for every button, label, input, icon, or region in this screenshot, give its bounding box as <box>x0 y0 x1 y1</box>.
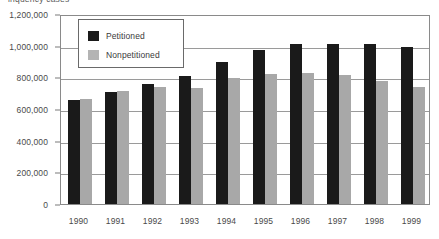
x-axis-tick-label: 1994 <box>217 216 236 226</box>
bar-nonpetitioned-1994[interactable] <box>228 78 240 204</box>
x-axis-tick-label: 1996 <box>291 216 310 226</box>
x-axis-tick-label: 1997 <box>328 216 347 226</box>
bar-nonpetitioned-1998[interactable] <box>376 81 388 204</box>
bar-petitioned-1995[interactable] <box>253 50 265 204</box>
y-axis-tick-label: 200,000 <box>17 168 48 178</box>
x-axis-tick-label: 1993 <box>180 216 199 226</box>
bar-petitioned-1997[interactable] <box>327 44 339 204</box>
bar-nonpetitioned-1995[interactable] <box>265 74 277 204</box>
bar-petitioned-1996[interactable] <box>290 44 302 204</box>
legend-label-petitioned: Petitioned <box>106 31 145 41</box>
x-axis-tick-label: 1991 <box>106 216 125 226</box>
bar-petitioned-1993[interactable] <box>179 76 191 204</box>
x-axis-tick-label: 1995 <box>254 216 273 226</box>
legend-swatch-petitioned <box>88 31 99 41</box>
y-axis-tick-label: 1,000,000 <box>9 42 48 52</box>
legend-item-petitioned[interactable]: Petitioned <box>88 27 183 44</box>
bar-nonpetitioned-1999[interactable] <box>413 87 425 204</box>
bar-nonpetitioned-1997[interactable] <box>339 75 351 204</box>
bar-nonpetitioned-1991[interactable] <box>117 91 129 204</box>
bar-petitioned-1990[interactable] <box>68 100 80 204</box>
bar-petitioned-1994[interactable] <box>216 62 228 204</box>
legend-swatch-nonpetitioned <box>88 50 99 60</box>
bar-petitioned-1991[interactable] <box>105 92 117 204</box>
chart-legend: Petitioned Nonpetitioned <box>78 19 184 68</box>
bar-nonpetitioned-1993[interactable] <box>191 88 203 204</box>
x-axis-tick-label: 1990 <box>69 216 88 226</box>
bar-petitioned-1992[interactable] <box>142 84 154 204</box>
y-axis-tick-label: 0 <box>43 200 48 210</box>
legend-item-nonpetitioned[interactable]: Nonpetitioned <box>88 46 183 63</box>
x-axis-tick-label: 1998 <box>365 216 384 226</box>
legend-label-nonpetitioned: Nonpetitioned <box>106 50 160 60</box>
x-axis: 1990199119921993199419951996199719981999 <box>60 210 430 230</box>
x-axis-tick-label: 1992 <box>143 216 162 226</box>
bar-petitioned-1999[interactable] <box>401 47 413 204</box>
y-axis-tick-label: 1,200,000 <box>9 10 48 20</box>
bar-nonpetitioned-1996[interactable] <box>302 73 314 204</box>
y-axis-tick-label: 400,000 <box>17 137 48 147</box>
y-axis-tick-label: 600,000 <box>17 105 48 115</box>
x-axis-tick-label: 1999 <box>402 216 421 226</box>
chart-page: inquency cases 0200,000400,000600,000800… <box>0 0 439 239</box>
y-axis-tick-label: 800,000 <box>17 73 48 83</box>
bar-nonpetitioned-1990[interactable] <box>80 99 92 204</box>
bar-petitioned-1998[interactable] <box>364 44 376 204</box>
y-axis: 0200,000400,000600,000800,0001,000,0001,… <box>0 0 60 239</box>
bar-nonpetitioned-1992[interactable] <box>154 87 166 204</box>
